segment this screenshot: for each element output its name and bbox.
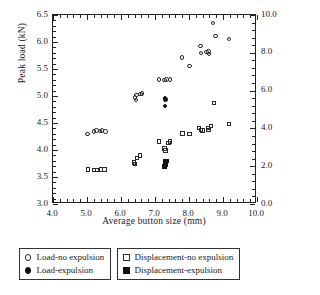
y-tick-right: [252, 98, 255, 99]
y-tick-label-left: 5.5: [22, 64, 48, 73]
y-tick-left: [53, 166, 56, 167]
x-tick-top: [87, 15, 88, 20]
x-tick: [175, 199, 176, 202]
x-tick-label: 8.0: [175, 209, 201, 218]
x-tick-label: 9.0: [209, 209, 235, 218]
x-tick-label: 4.0: [39, 209, 65, 218]
x-tick-top: [101, 15, 102, 18]
y-tick-left: [53, 20, 56, 21]
y-tick-left: [53, 74, 56, 75]
legend-box-displacement: Displacement-no expulsionDisplacement-ex…: [117, 248, 240, 280]
displacement-legend-item[interactable]: Displacement-no expulsion: [123, 252, 233, 263]
x-tick: [223, 197, 224, 202]
y-tick-right: [250, 166, 255, 167]
displacement-legend-item[interactable]: Displacement-expulsion: [123, 265, 233, 276]
data-point: [180, 55, 184, 59]
legend-label: Displacement-expulsion: [135, 265, 222, 276]
data-point: [187, 64, 191, 68]
y-tick-label-left: 3.0: [22, 199, 48, 208]
x-tick: [73, 199, 74, 202]
x-tick: [189, 197, 190, 202]
y-tick-label-left: 5.0: [22, 91, 48, 100]
x-tick-top: [223, 15, 224, 20]
x-tick: [121, 197, 122, 202]
y-tick-right: [252, 159, 255, 160]
y-tick-left: [53, 42, 58, 43]
y-tick-left: [53, 139, 56, 140]
data-point: [211, 21, 215, 25]
x-tick-top: [162, 15, 163, 18]
y-tick-left: [53, 155, 56, 156]
x-tick-top: [257, 15, 258, 20]
y-tick-right: [252, 30, 255, 31]
data-point: [138, 153, 142, 157]
data-point: [86, 167, 90, 171]
x-tick: [101, 199, 102, 202]
y-tick-left: [53, 91, 56, 92]
x-tick-top: [148, 15, 149, 18]
y-tick-left: [53, 31, 56, 32]
y-tick-right: [252, 181, 255, 182]
x-tick: [257, 197, 258, 202]
y-tick-left: [53, 128, 56, 129]
y-tick-left: [53, 107, 56, 108]
x-tick: [216, 199, 217, 202]
y-tick-right: [252, 189, 255, 190]
data-point: [133, 162, 137, 166]
x-tick: [60, 199, 61, 202]
x-tick: [148, 199, 149, 202]
x-tick: [209, 199, 210, 202]
y-tick-left: [53, 58, 56, 59]
data-point: [199, 51, 203, 55]
x-tick: [230, 199, 231, 202]
legend-label: Load-no expulsion: [36, 252, 104, 263]
data-point: [212, 101, 216, 105]
y-tick-right: [252, 83, 255, 84]
load-legend-item[interactable]: Load-expulsion: [25, 265, 104, 276]
x-tick-top: [107, 15, 108, 18]
y-tick-left: [53, 53, 56, 54]
y-tick-label-right: 10.0: [261, 10, 287, 19]
y-tick-left: [53, 134, 56, 135]
y-tick-right: [252, 45, 255, 46]
data-point: [200, 128, 204, 132]
x-tick-top: [73, 15, 74, 18]
x-tick-top: [121, 15, 122, 20]
x-tick: [114, 199, 115, 202]
data-point: [213, 34, 217, 38]
y-tick-right: [252, 151, 255, 152]
x-tick-label: 7.0: [141, 209, 167, 218]
x-tick: [237, 199, 238, 202]
y-tick-right: [250, 53, 255, 54]
data-point: [85, 132, 89, 136]
y-tick-right: [252, 23, 255, 24]
x-tick: [128, 199, 129, 202]
y-tick-left: [53, 193, 56, 194]
y-tick-left: [53, 145, 56, 146]
x-tick-top: [182, 15, 183, 18]
x-tick: [182, 199, 183, 202]
plot-area: [52, 14, 256, 203]
square-open-marker-icon: [123, 254, 129, 260]
data-point: [162, 164, 166, 168]
y-tick-right: [250, 91, 255, 92]
y-tick-label-right: 6.0: [261, 85, 287, 94]
x-tick-top: [94, 15, 95, 18]
square-filled-marker-icon: [123, 267, 129, 273]
x-tick-top: [80, 15, 81, 18]
legend-label: Displacement-no expulsion: [135, 252, 234, 263]
y-tick-left: [53, 118, 56, 119]
y-tick-left: [53, 188, 56, 189]
data-point: [103, 129, 107, 133]
x-tick-top: [128, 15, 129, 18]
y-tick-left: [53, 80, 56, 81]
data-point: [163, 97, 167, 101]
x-tick: [169, 199, 170, 202]
y-tick-left: [53, 204, 58, 205]
y-tick-right: [252, 60, 255, 61]
x-tick-top: [237, 15, 238, 18]
x-tick: [67, 199, 68, 202]
load-legend-item[interactable]: Load-no expulsion: [25, 252, 104, 263]
x-tick-top: [60, 15, 61, 18]
y-tick-right: [250, 204, 255, 205]
